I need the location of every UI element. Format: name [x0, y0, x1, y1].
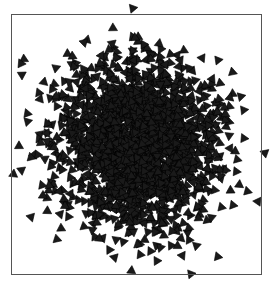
scatter-plot-figure [0, 0, 278, 289]
plot-border [11, 14, 262, 275]
